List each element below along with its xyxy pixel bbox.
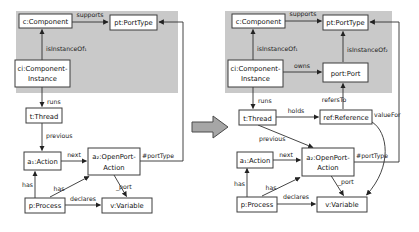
right-edge-valuefor-label: valueFor (374, 111, 401, 118)
right-node-component-instance-label1: ci:Component- (231, 65, 281, 73)
left-node-thread-label: t:Thread (30, 113, 59, 121)
right-node-port-label: port:Port (331, 70, 361, 78)
left-node-porttype-label: pt:PortType (114, 19, 152, 27)
left-node-openport-action-label1: a₂:OpenPort- (92, 153, 136, 161)
left-node-variable-label: v:Variable (110, 202, 143, 210)
right-node-process-label: p:Process (241, 201, 274, 209)
right-node-porttype-label: pt:PortType (326, 19, 364, 27)
left-node-component-instance-label2: Instance (28, 75, 57, 83)
left-edge-has-a1-label: has (22, 181, 33, 188)
left-edge-supports-label: supports (77, 11, 104, 19)
right-edge-next-label: next (279, 151, 293, 158)
right-node-openport-action-label1: a₂:OpenPort- (306, 154, 350, 162)
left-node-process-label: p:Process (29, 202, 62, 210)
right-edge-declares-label: declares (283, 193, 309, 200)
right-edge-supports-label: supports (290, 10, 317, 18)
figure-transformation-diagram: c:Component pt:PortType ci:Component- In… (0, 0, 419, 232)
right-edge-holds-label: holds (288, 107, 305, 114)
left-edge-runs-label: runs (47, 98, 61, 105)
right-panel: c:Component pt:PortType ci:Component- In… (225, 10, 401, 212)
right-edge-isinstanceof2-label: isInstanceOf₂ (347, 46, 388, 53)
right-edge-runs-label: runs (258, 97, 272, 104)
right-node-thread-label: t:Thread (243, 115, 272, 123)
left-edge-previous-label: previous (46, 132, 72, 140)
right-node-reference-label: ref:Reference (323, 114, 369, 122)
right-edge-has-a1-label: has (234, 180, 245, 187)
left-panel: c:Component pt:PortType ci:Component- In… (15, 11, 183, 213)
right-edge-port-ref-label: _port (337, 178, 354, 186)
left-node-openport-action-label2: Action (103, 164, 124, 172)
right-edge-owns-label: owns (294, 62, 310, 69)
left-edge-isinstanceof1-label: isInstanceOf₁ (46, 45, 87, 52)
left-node-component-instance-label1: ci:Component- (18, 65, 68, 73)
left-edge-next-label: next (67, 151, 81, 158)
right-node-component-instance-label2: Instance (241, 75, 270, 83)
right-node-openport-action-label2: Action (317, 164, 338, 172)
left-edge-has-a2-label: has (54, 185, 65, 192)
right-edge-previous-label: previous (259, 135, 285, 143)
right-node-action-label: a₁:Action (240, 157, 270, 165)
right-node-variable-label: v:Variable (325, 201, 358, 209)
left-edge-declares-label: declares (70, 195, 96, 202)
right-node-component-label: c:Component (236, 18, 282, 26)
diagram-canvas: c:Component pt:PortType ci:Component- In… (0, 0, 419, 232)
right-edge-refersto-label: refersTo (322, 96, 347, 103)
left-edge-port-ref-label: _port (115, 183, 132, 191)
transformation-arrow-icon (192, 116, 228, 138)
left-node-action-label: a₁:Action (27, 158, 57, 166)
left-node-component-label: c:Component (23, 18, 69, 26)
right-edge-has-a2-label: has (266, 184, 277, 191)
left-edge-porttype-ref-label: #portType (142, 152, 174, 160)
right-edge-porttype-ref-label: #portType (356, 152, 388, 160)
right-edge-isinstanceof1-label: isInstanceOf₁ (257, 45, 298, 52)
